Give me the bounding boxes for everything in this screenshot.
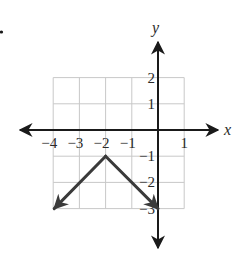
x-tick-label: 1 xyxy=(180,135,188,151)
x-tick-label: −1 xyxy=(120,135,136,151)
x-tick-label: −4 xyxy=(41,135,57,151)
x-tick-labels: −4−3−2−11 xyxy=(41,135,188,151)
x-axis-label: x xyxy=(223,121,231,138)
x-tick-label: −2 xyxy=(94,135,110,151)
y-tick-label: −2 xyxy=(139,174,155,190)
y-axis-label: y xyxy=(150,19,160,37)
y-tick-label: 1 xyxy=(148,96,156,112)
coordinate-graph: x y −4−3−2−11 21−1−2−3 xyxy=(0,0,249,253)
y-tick-label: 2 xyxy=(148,70,156,86)
y-tick-labels: 21−1−2−3 xyxy=(139,70,155,217)
y-tick-label: −1 xyxy=(139,148,155,164)
x-tick-label: −3 xyxy=(67,135,83,151)
list-marker-dot xyxy=(0,30,3,33)
